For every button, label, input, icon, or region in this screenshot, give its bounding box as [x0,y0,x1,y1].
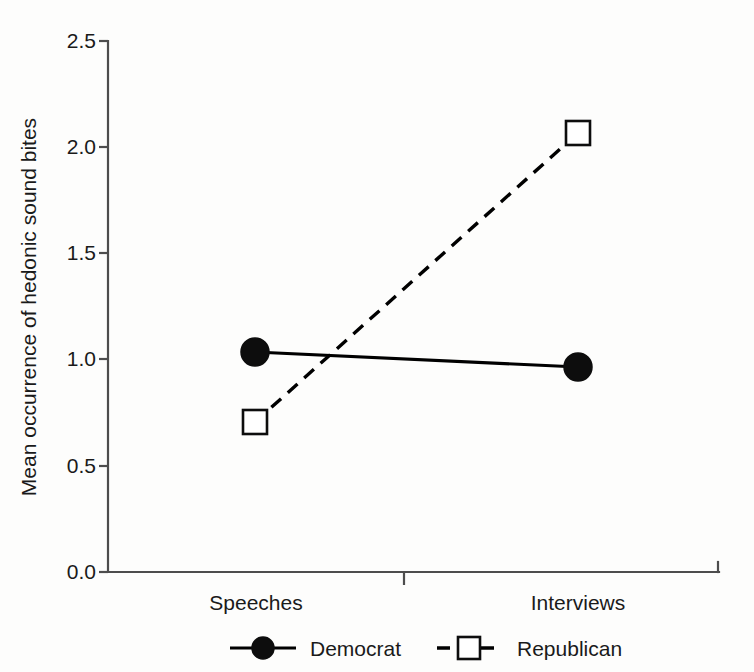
y-tick-label-1-0: 1.0 [67,347,96,370]
legend-entry-democrat: Democrat [230,637,401,660]
filled-circle-icon [252,637,274,659]
republican-marker-speeches [243,410,267,434]
republican-marker-interviews [566,121,590,145]
y-tick-label-1-5: 1.5 [67,241,96,264]
y-tick-label-0-5: 0.5 [67,454,96,477]
y-tick-label-2-5: 2.5 [67,29,96,52]
democrat-marker-speeches [241,338,269,366]
democrat-line-segment [255,352,578,367]
y-tick-label-0-0: 0.0 [67,560,96,583]
series-republican [243,121,590,434]
legend-label-democrat: Democrat [310,637,401,660]
democrat-marker-interviews [564,353,592,381]
y-tick-marks [99,41,108,572]
series-democrat [241,338,592,381]
chart-legend: Democrat Republican [230,637,622,660]
legend-label-republican: Republican [517,637,622,660]
y-axis-title: Mean occurrence of hedonic sound bites [17,118,40,496]
republican-line-segment [255,133,578,422]
open-square-icon [458,637,480,659]
y-tick-label-2-0: 2.0 [67,135,96,158]
x-tick-label-speeches: Speeches [209,591,302,614]
x-tick-label-interviews: Interviews [531,591,626,614]
legend-entry-republican: Republican [437,637,622,660]
line-chart: Mean occurrence of hedonic sound bites 2… [0,0,754,672]
figure-root: Mean occurrence of hedonic sound bites 2… [0,0,754,672]
